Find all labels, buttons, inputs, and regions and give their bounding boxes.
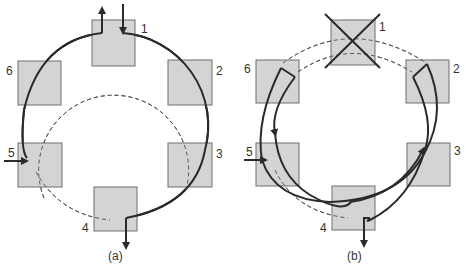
- node-a6-label: 6: [6, 64, 13, 78]
- node-a6[interactable]: [18, 61, 61, 105]
- node-a5-label: 5: [8, 146, 15, 160]
- panel-a-caption: (a): [108, 249, 123, 263]
- node-a1[interactable]: [92, 20, 135, 66]
- node-a3-label: 3: [216, 147, 223, 161]
- node-b2-label: 2: [453, 62, 460, 76]
- node-a4-label: 4: [82, 221, 89, 235]
- node-a1-label: 1: [141, 22, 148, 36]
- node-b1-label: 1: [379, 20, 386, 34]
- node-b4[interactable]: [332, 186, 375, 230]
- panel-a: 1 2 3 4 5 6 (a): [4, 4, 223, 263]
- node-a4[interactable]: [94, 187, 137, 231]
- panel-b: 1 2 3 4 5 6 (b): [244, 14, 461, 263]
- node-a2[interactable]: [168, 60, 212, 105]
- node-b3-label: 3: [454, 144, 461, 158]
- node-b5-label: 5: [246, 145, 253, 159]
- node-b6-label: 6: [244, 62, 251, 76]
- ring-diagram: 1 2 3 4 5 6 (a): [0, 0, 466, 270]
- panel-b-caption: (b): [347, 249, 362, 263]
- node-a2-label: 2: [216, 64, 223, 78]
- node-b4-label: 4: [320, 221, 327, 235]
